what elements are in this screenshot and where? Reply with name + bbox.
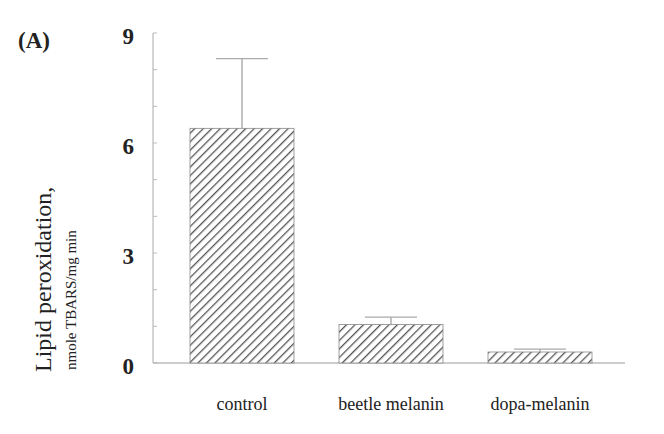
bar-control: [190, 128, 294, 363]
x-label-dopa-melanin: dopa-melanin: [465, 394, 615, 415]
x-label-control: control: [167, 394, 317, 415]
x-label-beetle-melanin: beetle melanin: [316, 394, 466, 415]
plot-area: [0, 0, 664, 434]
bars: [190, 59, 592, 363]
bar-dopa-melanin: [488, 352, 592, 363]
bar-beetle-melanin: [339, 325, 443, 364]
